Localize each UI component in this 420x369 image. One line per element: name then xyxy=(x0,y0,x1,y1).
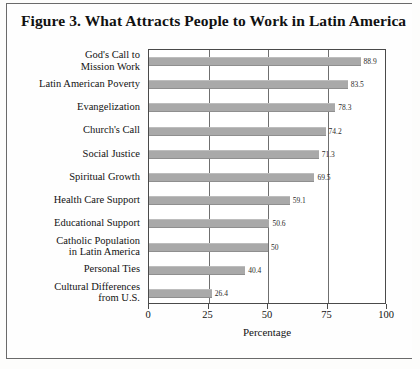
bar-value-label: 69.5 xyxy=(317,173,330,182)
bar xyxy=(149,57,361,66)
bar xyxy=(149,150,319,159)
bar-value-label: 71.3 xyxy=(322,150,335,159)
bar xyxy=(149,173,314,182)
bar-value-label: 78.3 xyxy=(338,103,351,112)
bar xyxy=(149,219,269,228)
bar-value-label: 50 xyxy=(271,243,279,252)
y-axis-label: Health Care Support xyxy=(54,194,140,206)
bar-row: 26.4 xyxy=(149,282,385,305)
y-axis-label: God's Call to Mission Work xyxy=(81,49,140,72)
figure-title: Figure 3. What Attracts People to Work i… xyxy=(21,12,420,30)
y-axis-label: Church's Call xyxy=(83,124,140,136)
y-axis-label: Personal Ties xyxy=(84,263,140,275)
bar-row: 71.3 xyxy=(149,143,385,166)
bar-row: 74.2 xyxy=(149,120,385,143)
x-axis-title: Percentage xyxy=(148,326,386,338)
bar-row: 59.1 xyxy=(149,189,385,212)
x-tick-label: 75 xyxy=(321,309,332,320)
bar xyxy=(149,127,326,136)
bar-value-label: 74.2 xyxy=(329,127,342,136)
x-tick-label: 25 xyxy=(202,309,213,320)
bar xyxy=(149,103,335,112)
y-axis-label: Educational Support xyxy=(54,217,140,229)
bar-row: 88.9 xyxy=(149,50,385,73)
bar-row: 50.6 xyxy=(149,212,385,235)
bar xyxy=(149,80,348,89)
bar-row: 50 xyxy=(149,235,385,258)
plot-area: 88.983.578.374.271.369.559.150.65040.426… xyxy=(148,49,386,304)
x-tick-label: 100 xyxy=(378,309,394,320)
bar xyxy=(149,289,212,298)
y-axis-label: Spiritual Growth xyxy=(69,171,140,183)
y-axis-label: Evangelization xyxy=(77,101,140,113)
x-tick-label: 50 xyxy=(262,309,273,320)
bar-chart: God's Call to Mission WorkLatin American… xyxy=(7,40,413,340)
figure-frame: Figure 3. What Attracts People to Work i… xyxy=(6,3,412,359)
y-axis-label: Social Justice xyxy=(83,148,140,160)
y-axis-label: Catholic Population in Latin America xyxy=(56,235,140,258)
bar-value-label: 59.1 xyxy=(293,196,306,205)
x-axis-ticks: 0255075100 xyxy=(148,304,386,322)
bar xyxy=(149,243,268,252)
bar-row: 69.5 xyxy=(149,166,385,189)
bar xyxy=(149,266,245,275)
bar-value-label: 88.9 xyxy=(364,57,377,66)
bar xyxy=(149,196,290,205)
bar-value-label: 50.6 xyxy=(272,219,285,228)
x-tick-label: 0 xyxy=(145,309,150,320)
bar-row: 83.5 xyxy=(149,73,385,96)
bar-row: 40.4 xyxy=(149,259,385,282)
bar-value-label: 40.4 xyxy=(248,266,261,275)
y-axis-label: Cultural Differences from U.S. xyxy=(54,281,140,304)
bar-value-label: 26.4 xyxy=(215,289,228,298)
y-axis-label: Latin American Poverty xyxy=(39,78,140,90)
y-axis-category-labels: God's Call to Mission WorkLatin American… xyxy=(7,49,145,304)
bar-value-label: 83.5 xyxy=(351,80,364,89)
bar-row: 78.3 xyxy=(149,96,385,119)
scanned-page: Figure 3. What Attracts People to Work i… xyxy=(0,0,420,369)
